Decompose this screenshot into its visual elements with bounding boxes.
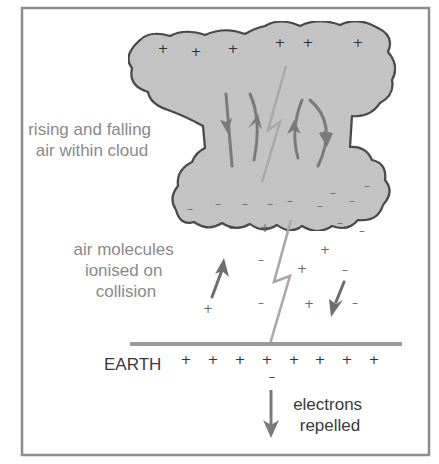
plus-charge: + [262, 352, 273, 367]
plus-charge: + [260, 221, 270, 235]
plus-charge: + [208, 352, 219, 367]
minus-charge: – [330, 186, 336, 200]
plus-charge: + [315, 352, 326, 367]
plus-charge: + [235, 352, 246, 367]
plus-charge: + [369, 352, 380, 367]
plus-charge: + [353, 35, 364, 50]
minus-charge: – [258, 253, 264, 267]
plus-charge: + [303, 35, 314, 50]
plus-charge: + [342, 352, 353, 367]
minus-charge: – [349, 194, 355, 208]
plus-charge: + [297, 262, 307, 276]
label-earth: EARTH [104, 355, 161, 374]
lightning-diagram: ++++++ –––––––––– –+–+–+–+–+– ++++++++ –… [0, 0, 439, 464]
plus-charge: + [158, 41, 169, 56]
plus-charge: + [228, 41, 239, 56]
minus-charge: – [364, 179, 370, 193]
minus-charge: – [229, 221, 235, 235]
minus-charge: – [359, 224, 365, 238]
minus-charge: – [337, 216, 343, 230]
minus-charge: – [187, 202, 193, 216]
minus-charge: – [258, 296, 264, 310]
plus-charge: + [275, 35, 286, 50]
minus-charge: – [342, 263, 348, 277]
plus-charge: + [320, 243, 330, 257]
minus-charge: – [287, 194, 293, 208]
plus-charge: + [203, 302, 213, 316]
plus-charge: + [191, 44, 202, 59]
electron-minus: – [269, 369, 276, 384]
minus-charge: – [317, 199, 323, 213]
minus-charge: – [215, 197, 221, 211]
minus-charge: – [242, 197, 248, 211]
plus-charge: + [181, 352, 192, 367]
minus-charge: – [267, 197, 273, 211]
plus-charge: + [304, 297, 314, 311]
plus-charge: + [289, 352, 300, 367]
minus-charge: – [352, 296, 358, 310]
